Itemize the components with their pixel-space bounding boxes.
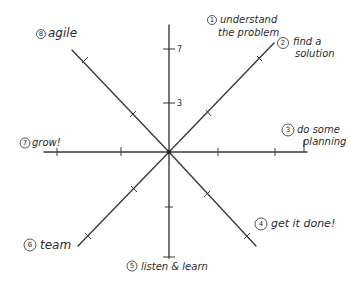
axis-number-6: 6: [28, 241, 33, 249]
axis-number-4: 4: [259, 220, 264, 228]
axis-6: [78, 152, 169, 246]
axis-number-1: 1: [210, 16, 214, 24]
axis-number-5: 5: [130, 262, 134, 270]
axis-label-8-line1: agile: [48, 26, 77, 40]
axis-label-5-line1: listen & learn: [141, 261, 208, 272]
axis-label-4-line1: get it done!: [271, 217, 335, 230]
axis-8: [72, 50, 169, 152]
axis-horizontal: [44, 140, 307, 156]
axis-number-7: 7: [23, 139, 27, 147]
axis-vertical: [163, 25, 175, 258]
axis-label-6: 6 team: [24, 238, 71, 252]
axis-label-3-line1: do some: [297, 124, 340, 135]
axis-label-1: 1 understand the problem: [208, 14, 280, 38]
axis-label-3: 3 do some planning: [282, 124, 346, 147]
axis-label-7: 7 grow!: [20, 137, 61, 148]
axis-label-6-line1: team: [40, 238, 71, 252]
axis-number-8: 8: [39, 30, 43, 38]
axis-label-1-line2: the problem: [218, 27, 279, 38]
axis-2: [169, 43, 274, 152]
axis-label-4: 4 get it done!: [255, 217, 335, 230]
axis-number-2: 2: [281, 39, 285, 47]
axis-label-3-line2: planning: [302, 136, 346, 147]
axis-number-3: 3: [286, 126, 290, 134]
axis-4: [169, 152, 256, 246]
axis-label-2-line2: solution: [295, 48, 335, 59]
axis-label-5: 5 listen & learn: [127, 261, 208, 272]
axis-label-8: 8 agile: [37, 26, 78, 40]
radar-diagram: 7 3 1 understand the problem 2 find a so…: [0, 0, 351, 286]
axis-label-7-line1: grow!: [32, 137, 61, 148]
axis-label-2-line1: find a: [293, 36, 321, 47]
axis-label-1-line1: understand: [220, 14, 278, 25]
center-point: [167, 150, 171, 154]
scale-label-7: 7: [177, 45, 182, 54]
axis-label-2: 2 find a solution: [278, 36, 335, 59]
scale-label-3: 3: [177, 99, 182, 108]
